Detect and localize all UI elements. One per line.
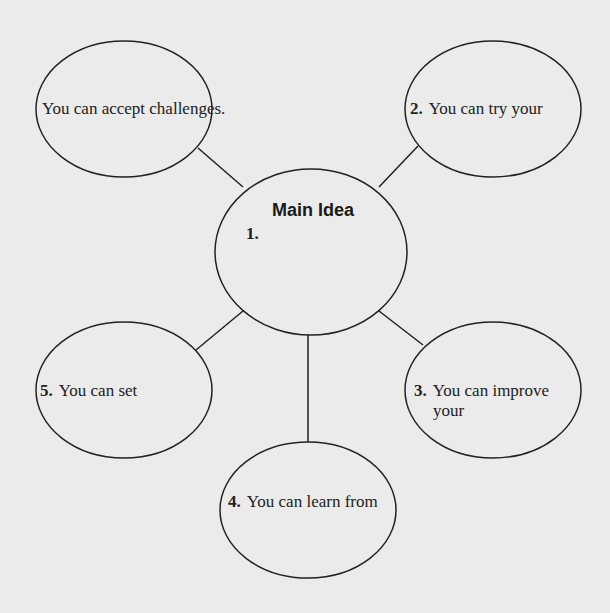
node-bottom-right-text-line2: your [433,401,464,420]
node-top-right-text: You can try your [429,99,543,118]
node-bottom-text: You can learn from [247,492,378,511]
node-bottom-label: 4.You can learn from [228,491,378,513]
node-bottom-right-label: 3.You can improve [414,380,549,402]
node-bottom-left-label: 5.You can set [40,380,137,402]
connector-bottom-left [196,311,243,350]
connector-top-left [198,148,243,187]
node-bottom-number: 4. [228,492,241,511]
concept-web-diagram: You can accept challenges. 2.You can try… [0,0,610,613]
node-top-right-label: 2.You can try your [410,98,543,120]
node-bottom-right-number: 3. [414,381,427,400]
diagram-shapes [0,0,610,613]
node-top-right-number: 2. [410,99,423,118]
node-bottom-right-label-line2: your [433,400,464,422]
connector-top-right [379,146,418,187]
node-bottom-left-number: 5. [40,381,53,400]
main-idea-number: 1. [246,224,259,244]
ellipse-main-idea [215,169,407,335]
connector-bottom-right [379,311,423,345]
node-bottom-right-text-line1: You can improve [433,381,549,400]
main-idea-title: Main Idea [272,200,354,221]
node-top-left-text: You can accept challenges. [42,99,225,118]
node-bottom-left-text: You can set [59,381,138,400]
node-top-left-label: You can accept challenges. [42,98,225,120]
